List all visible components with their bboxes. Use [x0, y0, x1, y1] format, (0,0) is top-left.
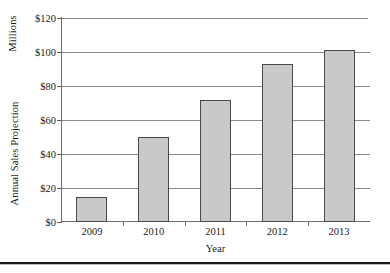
plot-area [61, 18, 370, 222]
y-axis-tick-label: $20 [12, 183, 56, 194]
bar-chart-figure: Millions Annual Sales Projection $0$20$4… [0, 0, 390, 273]
x-axis-tick-label: 2010 [143, 226, 164, 237]
page-divider-shadow [0, 264, 390, 265]
x-axis-tick-label: 2009 [81, 226, 102, 237]
y-axis-tick-mark [57, 18, 62, 19]
y-axis-tick-label: $80 [12, 81, 56, 92]
y-axis-tick-mark [57, 52, 62, 53]
x-axis-tick-mark [185, 222, 186, 226]
x-axis-tick-mark [123, 222, 124, 226]
bar [262, 64, 293, 222]
y-axis-tick-mark [57, 154, 62, 155]
gridline [61, 18, 368, 19]
y-axis-tick-label: $40 [12, 149, 56, 160]
x-axis-tick-mark [246, 222, 247, 226]
bar [200, 100, 231, 222]
x-axis-tick-label: 2012 [267, 226, 288, 237]
y-axis-tick-mark [57, 188, 62, 189]
bar [324, 50, 355, 222]
y-axis-tick-mark [57, 222, 62, 223]
bar [76, 197, 107, 223]
y-axis-tick-mark [57, 120, 62, 121]
y-axis-tick-label: $0 [12, 217, 56, 228]
x-axis-tick-label: 2011 [205, 226, 226, 237]
y-axis-tick-mark [57, 86, 62, 87]
x-axis-tick-label: 2013 [329, 226, 350, 237]
x-axis-tick-mark [308, 222, 309, 226]
y-axis-tick-label: $100 [12, 47, 56, 58]
y-axis-tick-label: $120 [12, 13, 56, 24]
x-axis-title: Year [61, 243, 370, 254]
y-axis-tick-labels: $0$20$40$60$80$100$120 [8, 0, 56, 273]
bar [138, 137, 169, 222]
y-axis-tick-label: $60 [12, 115, 56, 126]
